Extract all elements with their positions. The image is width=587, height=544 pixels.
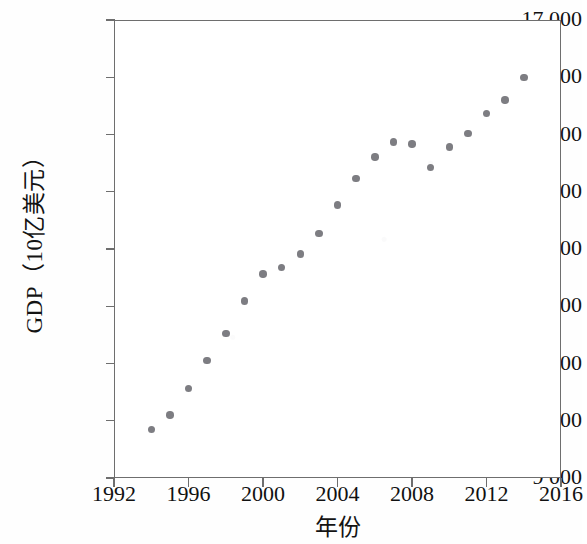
y-axis-title: GDP（10亿美元） — [15, 59, 49, 419]
x-axis-tick-label: 2004 — [298, 482, 378, 506]
data-point — [166, 411, 174, 419]
x-axis-tick-label: 2008 — [372, 482, 452, 506]
data-point — [241, 297, 249, 305]
data-point — [390, 138, 398, 146]
data-point — [259, 270, 267, 278]
data-point — [520, 74, 528, 82]
x-axis-tick-label: 2016 — [521, 482, 587, 506]
data-point — [446, 143, 454, 151]
data-point — [185, 385, 193, 393]
data-point — [315, 230, 323, 238]
data-point — [371, 153, 379, 161]
plot-area — [114, 20, 561, 478]
data-point — [464, 130, 472, 138]
x-axis-tick-label: 1996 — [149, 482, 229, 506]
data-point — [278, 264, 286, 272]
data-point — [334, 201, 342, 209]
data-point — [408, 140, 416, 148]
x-axis-tick-label: 1992 — [74, 482, 154, 506]
data-point — [222, 330, 230, 338]
x-axis-tick-label: 2000 — [223, 482, 303, 506]
data-point — [427, 164, 435, 172]
x-axis-title: 年份 — [114, 508, 562, 542]
data-point — [483, 110, 491, 118]
data-point — [352, 175, 360, 183]
data-point — [148, 426, 156, 434]
data-point — [297, 250, 305, 258]
data-point — [501, 96, 509, 104]
data-point — [203, 357, 211, 365]
x-axis-tick-label: 2012 — [447, 482, 527, 506]
